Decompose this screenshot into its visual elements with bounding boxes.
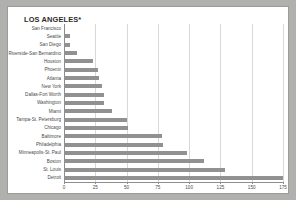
bar-row: Chicago	[64, 124, 283, 132]
x-axis: 0255075100125150175	[64, 182, 283, 196]
bar-row: Atlanta	[64, 74, 283, 82]
bar-row: Washington	[64, 99, 283, 107]
bar-row: New York	[64, 82, 283, 90]
x-tick-mark	[252, 182, 253, 184]
x-tick-label: 125	[217, 185, 225, 190]
x-tick-label: 75	[155, 185, 160, 190]
bar-row: Dallas-Fort Worth	[64, 91, 283, 99]
plot-area: San FranciscoSeattleSan DiegoRiverside-S…	[64, 24, 283, 182]
bar	[64, 84, 102, 88]
category-label: Atlanta	[47, 76, 61, 81]
x-tick-mark	[95, 182, 96, 184]
x-tick-mark	[64, 182, 65, 184]
bar-row: Seattle	[64, 32, 283, 40]
chart-figure: LOS ANGELES* San FranciscoSeattleSan Die…	[7, 6, 289, 194]
category-label: Chicago	[44, 125, 61, 130]
bar-row: Phoenix	[64, 66, 283, 74]
bar-row: Minneapolis-St. Paul	[64, 149, 283, 157]
bar-row: Boston	[64, 157, 283, 165]
bar	[64, 176, 283, 180]
x-tick-mark	[189, 182, 190, 184]
bar-row: St. Louis	[64, 165, 283, 173]
bar	[64, 109, 112, 113]
bar	[64, 68, 98, 72]
bar-row: Miami	[64, 107, 283, 115]
bar	[64, 51, 77, 55]
x-tick-label: 25	[93, 185, 98, 190]
category-label: St. Louis	[43, 167, 61, 172]
category-label: Houston	[44, 59, 61, 64]
bar	[64, 93, 104, 97]
x-tick-label: 100	[185, 185, 193, 190]
bar	[64, 126, 128, 130]
x-tick-label: 175	[279, 185, 287, 190]
x-tick-mark	[283, 182, 284, 184]
category-label: Boston	[47, 159, 61, 164]
bar-row: Baltimore	[64, 132, 283, 140]
bar-row: Detroit	[64, 174, 283, 182]
x-tick-mark	[127, 182, 128, 184]
category-label: Seattle	[47, 34, 61, 39]
x-axis-line	[64, 182, 283, 183]
bar	[64, 159, 204, 163]
bar	[64, 59, 93, 63]
bar-row: San Francisco	[64, 24, 283, 32]
bar-row: Riverside-San Bernardino	[64, 49, 283, 57]
category-label: Tampa-St. Petersburg	[16, 117, 61, 122]
bar	[64, 34, 70, 38]
bar-row: Philadelphia	[64, 140, 283, 148]
category-label: Washington	[37, 100, 61, 105]
gridline	[283, 24, 284, 182]
bar-rows: San FranciscoSeattleSan DiegoRiverside-S…	[64, 24, 283, 182]
category-label: Detroit	[47, 175, 61, 180]
x-tick-label: 50	[124, 185, 129, 190]
bar	[64, 101, 104, 105]
category-label: Phoenix	[44, 67, 61, 72]
x-tick-label: 150	[248, 185, 256, 190]
bar	[64, 168, 225, 172]
bar	[64, 143, 163, 147]
category-label: Dallas-Fort Worth	[25, 92, 61, 97]
bar	[64, 151, 187, 155]
x-tick-label: 0	[63, 185, 66, 190]
category-label: Philadelphia	[36, 142, 61, 147]
x-tick-mark	[220, 182, 221, 184]
bar	[64, 76, 99, 80]
x-tick-mark	[158, 182, 159, 184]
bar	[64, 43, 70, 47]
category-label: Riverside-San Bernardino	[8, 51, 61, 56]
bar-row: Houston	[64, 57, 283, 65]
chart-title: LOS ANGELES*	[24, 15, 81, 24]
category-label: New York	[42, 84, 61, 89]
bar-row: San Diego	[64, 41, 283, 49]
category-label: Miami	[49, 109, 61, 114]
category-label: Baltimore	[42, 134, 61, 139]
bar	[64, 118, 127, 122]
bar	[64, 134, 162, 138]
bar-row: Tampa-St. Petersburg	[64, 115, 283, 123]
category-label: San Diego	[40, 42, 61, 47]
category-label: San Francisco	[32, 26, 61, 31]
category-label: Minneapolis-St. Paul	[19, 150, 61, 155]
